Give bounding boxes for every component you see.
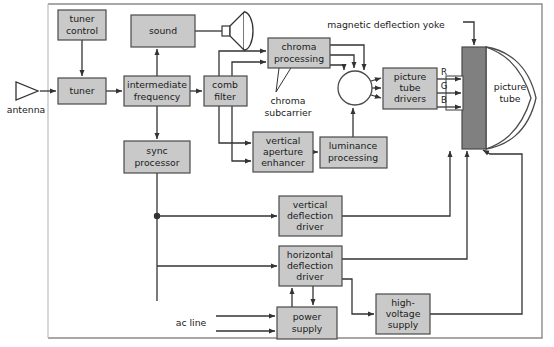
wire-sum-to-ptd-3 (371, 95, 381, 98)
label-antenna: antenna (7, 104, 45, 115)
label-hv-1: high- (391, 297, 415, 308)
label-vae-2: aperture (263, 146, 303, 157)
block-labels: tuner control sound tuner intermediate f… (66, 13, 427, 334)
label-chroma-1: chroma (281, 41, 316, 52)
label-tuner-control-1: tuner (70, 13, 95, 24)
label-luminance-2: processing (328, 152, 378, 163)
label-vae-1: vertical (266, 135, 301, 146)
label-ptd-1: picture (394, 71, 427, 82)
wire-comb-to-vae-1 (219, 106, 251, 143)
label-vdd-2: deflection (287, 210, 333, 221)
label-tuner-control-2: control (66, 25, 98, 36)
speaker-icon (222, 12, 253, 50)
label-tuner: tuner (70, 85, 95, 96)
label-ptd-2: tube (399, 82, 420, 93)
label-hv-3: supply (388, 319, 419, 330)
block-rects (58, 10, 437, 339)
label-vdd-1: vertical (293, 199, 328, 210)
label-sync-1: sync (146, 145, 167, 156)
label-power-supply-2: supply (292, 323, 323, 334)
label-chroma-2: processing (274, 53, 324, 64)
free-labels: antenna chroma subcarrier magnetic defle… (7, 19, 527, 328)
label-vae-3: enhancer (261, 157, 305, 168)
label-ac-line: ac line (176, 317, 207, 328)
label-luminance-1: luminance (329, 140, 378, 151)
wire-chroma-to-sum-3 (330, 65, 344, 70)
label-comb-filter-1: comb (212, 79, 238, 90)
television-receiver-block-diagram: tuner control sound tuner intermediate f… (0, 0, 554, 347)
sync-branch-dot (154, 213, 160, 219)
label-hdd-2: deflection (287, 260, 333, 271)
wire-comb-to-chroma-2 (232, 62, 266, 76)
label-sync-2: processor (134, 157, 179, 168)
leader-magnetic-deflection-yoke (463, 22, 474, 45)
wire-hv-to-crt (430, 150, 522, 314)
wire-sum-to-ptd-1 (371, 78, 381, 81)
label-hdd-1: horizontal (287, 249, 333, 260)
label-picture-tube-1: picture (494, 81, 527, 92)
label-power-supply-1: power (293, 311, 322, 322)
label-g: G (441, 81, 448, 91)
wire-hdd-to-hv (342, 279, 374, 314)
label-hdd-3: driver (296, 271, 324, 282)
label-chroma-subcarrier-1: chroma (270, 95, 305, 106)
label-comb-filter-2: filter (214, 91, 236, 102)
label-chroma-subcarrier-2: subcarrier (264, 107, 311, 118)
antenna-icon (16, 82, 38, 100)
label-sound: sound (149, 25, 177, 36)
summing-junction (338, 71, 372, 105)
label-hv-2: voltage (386, 308, 421, 319)
label-if-2: frequency (134, 91, 181, 102)
label-if-1: intermediate (127, 79, 187, 90)
label-b: B (441, 95, 447, 105)
wire-comb-to-vae-2 (232, 106, 251, 161)
crt-neck (462, 47, 486, 149)
label-picture-tube-2: tube (499, 93, 520, 104)
label-vdd-3: driver (296, 221, 324, 232)
rgb-labels: R G B (441, 67, 448, 105)
wire-comb-to-chroma-1 (219, 51, 266, 76)
diagram-canvas: tuner control sound tuner intermediate f… (0, 0, 554, 347)
label-magnetic-deflection-yoke: magnetic deflection yoke (327, 19, 445, 30)
label-ptd-3: drivers (394, 93, 426, 104)
wire-chroma-to-sum-1 (330, 45, 364, 70)
label-r: R (441, 67, 447, 77)
wire-chroma-to-sum-2 (330, 55, 354, 68)
